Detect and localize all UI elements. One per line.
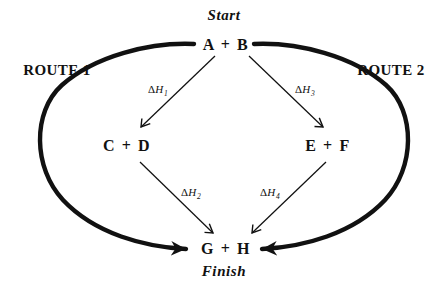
enthalpy-label-dh1: ΔH1 bbox=[148, 84, 168, 98]
node-g-plus-h: G + H bbox=[201, 241, 251, 257]
arrow-cd-to-gh bbox=[140, 162, 213, 233]
route-2-label: ROUTE 2 bbox=[357, 63, 424, 78]
route-1-label: ROUTE 1 bbox=[23, 63, 90, 78]
subscript: 2 bbox=[196, 192, 200, 201]
subscript: 1 bbox=[163, 89, 167, 98]
enthalpy-label-dh2: ΔH2 bbox=[181, 187, 201, 201]
start-label: Start bbox=[207, 8, 240, 23]
subscript: 4 bbox=[275, 192, 279, 201]
node-c-plus-d: C + D bbox=[103, 138, 151, 154]
subscript: 3 bbox=[310, 89, 314, 98]
diagram-canvas: Start A + B ROUTE 1 ROUTE 2 ΔH1 ΔH3 C + … bbox=[0, 0, 448, 294]
node-a-plus-b: A + B bbox=[203, 37, 249, 53]
finish-label: Finish bbox=[202, 264, 246, 279]
enthalpy-label-dh3: ΔH3 bbox=[295, 84, 315, 98]
node-e-plus-f: E + F bbox=[305, 138, 351, 154]
enthalpy-label-dh4: ΔH4 bbox=[260, 187, 280, 201]
